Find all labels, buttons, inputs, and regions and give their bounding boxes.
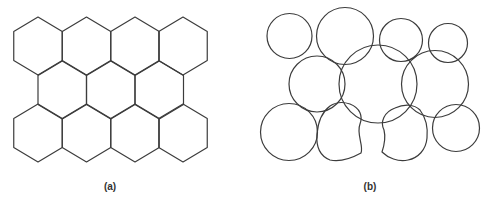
circular-cell [261, 104, 318, 161]
circular-cell [267, 14, 312, 59]
hexagon-cell [14, 17, 63, 75]
circular-cell [380, 19, 423, 62]
panel-b-irregular-cells [261, 8, 480, 161]
circular-cell [402, 51, 469, 118]
hexagon-cell [38, 61, 87, 119]
hexagon-cell [159, 104, 208, 162]
hexagon-cell [87, 61, 136, 119]
hexagon-cell [135, 61, 184, 119]
circular-cell [433, 105, 480, 152]
panel-a-hexagonal-tiling [14, 17, 208, 162]
circular-cell [317, 8, 374, 65]
panel-a-label: (a) [104, 181, 116, 192]
circular-cell [429, 24, 468, 63]
hexagon-cell [111, 104, 160, 162]
circular-cell [339, 45, 417, 123]
hexagon-cell [62, 17, 111, 75]
figure: (a) (b) [0, 0, 492, 208]
hexagon-cell [62, 104, 111, 162]
deformed-cell [382, 105, 427, 160]
hexagon-cell [111, 17, 160, 75]
hexagon-cell [159, 17, 208, 75]
hexagon-cell [14, 104, 63, 162]
panel-b-label: (b) [364, 181, 377, 192]
